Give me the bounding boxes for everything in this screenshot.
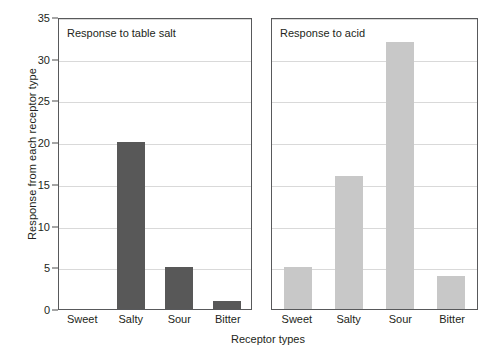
- panel-left-title: Response to table salt: [67, 27, 176, 39]
- bar-salty: [335, 176, 363, 309]
- bar-slot: [203, 19, 251, 309]
- bar-sweet: [284, 267, 312, 309]
- bar-salty: [117, 142, 145, 309]
- bar-slot: [426, 19, 477, 309]
- x-tick-label-bitter: Bitter: [204, 313, 253, 331]
- bar-bitter: [437, 276, 465, 309]
- bar-chart-figure: Response from each receptor type 0510152…: [0, 0, 493, 360]
- panel-right-x-labels: SweetSaltySourBitter: [271, 313, 478, 331]
- x-tick-label-bitter: Bitter: [426, 313, 478, 331]
- x-tick-label-sour: Sour: [375, 313, 427, 331]
- x-axis-title: Receptor types: [58, 333, 478, 345]
- x-tick-label-sour: Sour: [155, 313, 204, 331]
- bar-slot: [272, 19, 323, 309]
- y-axis-tick-labels: 05101520253035: [22, 18, 58, 310]
- y-tick-label: 15: [38, 179, 50, 191]
- y-tick-label: 35: [38, 12, 50, 24]
- panel-left-bars: [59, 19, 251, 309]
- x-tick-label-salty: Salty: [107, 313, 156, 331]
- panel-response-to-acid: Response to acid: [271, 18, 478, 310]
- bar-slot: [107, 19, 155, 309]
- bar-sour: [386, 42, 414, 309]
- panel-right-bars: [272, 19, 477, 309]
- panel-left-x-labels: SweetSaltySourBitter: [58, 313, 252, 331]
- y-tick-label: 10: [38, 221, 50, 233]
- y-tick-label: 0: [44, 304, 50, 316]
- x-tick-label-sweet: Sweet: [271, 313, 323, 331]
- bar-sour: [165, 267, 193, 309]
- panel-right-title: Response to acid: [280, 27, 365, 39]
- y-tick-label: 20: [38, 137, 50, 149]
- y-tick-label: 30: [38, 54, 50, 66]
- bar-slot: [59, 19, 107, 309]
- bar-slot: [323, 19, 374, 309]
- bar-slot: [375, 19, 426, 309]
- x-tick-label-sweet: Sweet: [58, 313, 107, 331]
- panel-response-to-table-salt: Response to table salt: [58, 18, 252, 310]
- bar-slot: [155, 19, 203, 309]
- x-tick-label-salty: Salty: [323, 313, 375, 331]
- y-tick-label: 25: [38, 95, 50, 107]
- y-tick-label: 5: [44, 262, 50, 274]
- bar-bitter: [213, 301, 241, 309]
